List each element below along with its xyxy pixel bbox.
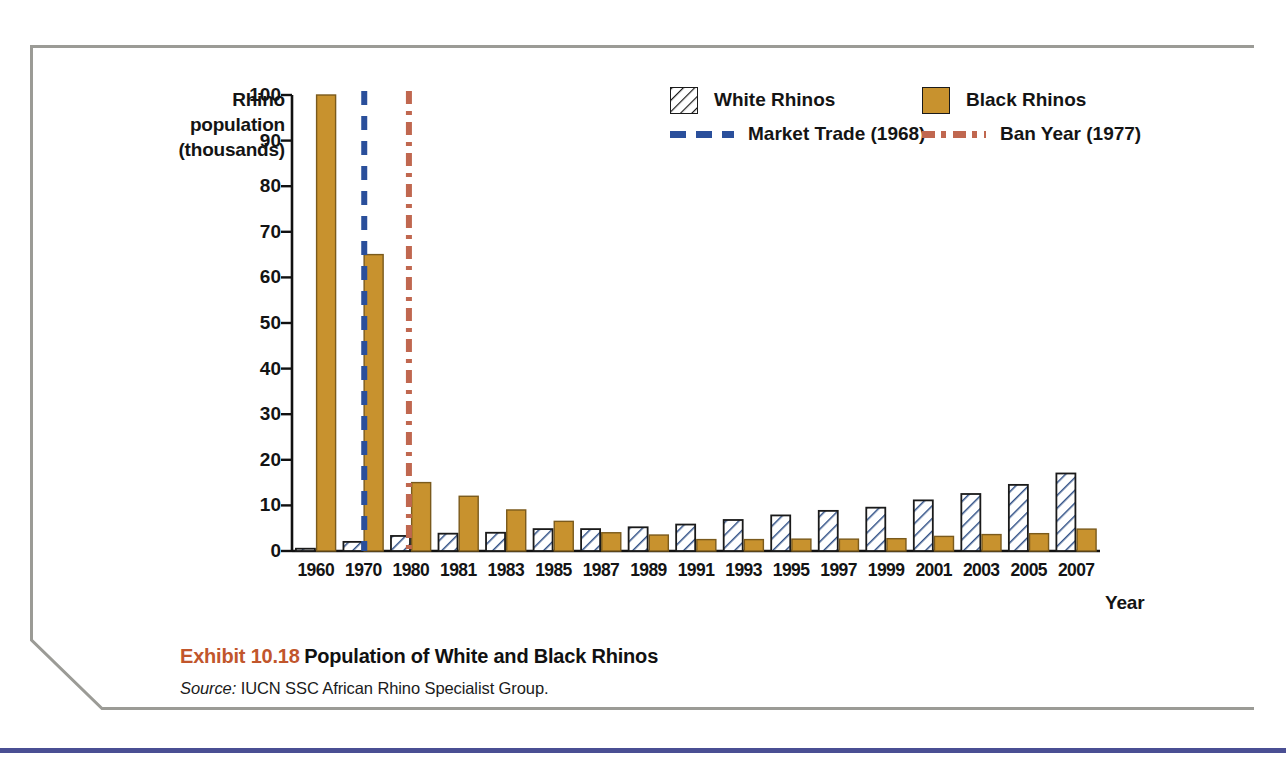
exhibit-title: Population of White and Black Rhinos bbox=[304, 645, 658, 667]
bar-white-rhinos-1970 bbox=[343, 542, 362, 551]
legend-label-market-trade: Market Trade (1968) bbox=[748, 123, 925, 145]
bar-black-rhinos-1999 bbox=[887, 539, 906, 551]
bar-black-rhinos-2003 bbox=[982, 535, 1001, 551]
legend-item-white-rhinos[interactable]: White Rhinos bbox=[670, 87, 922, 114]
bar-white-rhinos-1995 bbox=[771, 515, 790, 551]
bar-white-rhinos-2003 bbox=[961, 494, 980, 551]
bar-black-rhinos-1991 bbox=[697, 540, 716, 551]
x-axis-tick-2001: 2001 bbox=[915, 560, 952, 581]
legend-label-black-rhinos: Black Rhinos bbox=[966, 89, 1086, 111]
legend-row-series: White Rhinos Black Rhinos bbox=[670, 83, 1150, 117]
source-line: Source: IUCN SSC African Rhino Specialis… bbox=[180, 679, 1180, 698]
bar-white-rhinos-1987 bbox=[581, 529, 600, 551]
x-axis-tick-1985: 1985 bbox=[535, 560, 572, 581]
bar-white-rhinos-1983 bbox=[486, 533, 505, 551]
x-axis-tick-1999: 1999 bbox=[868, 560, 905, 581]
bar-black-rhinos-1980 bbox=[412, 483, 431, 551]
chart-legend: White Rhinos Black Rhinos Market Trade (… bbox=[670, 83, 1150, 151]
bar-black-rhinos-2001 bbox=[934, 536, 953, 551]
x-axis-tick-1989: 1989 bbox=[630, 560, 667, 581]
x-axis-tick-1960: 1960 bbox=[297, 560, 334, 581]
market-trade-dashed-line-icon bbox=[670, 131, 734, 138]
source-label: Source: bbox=[180, 679, 236, 697]
legend-label-ban-year: Ban Year (1977) bbox=[1000, 123, 1141, 145]
bar-white-rhinos-1991 bbox=[676, 525, 695, 551]
bar-black-rhinos-1995 bbox=[792, 539, 811, 551]
bar-black-rhinos-1960 bbox=[317, 95, 336, 551]
legend-label-white-rhinos: White Rhinos bbox=[714, 89, 835, 111]
x-axis-tick-1970: 1970 bbox=[345, 560, 382, 581]
x-axis-tick-1983: 1983 bbox=[488, 560, 525, 581]
bar-black-rhinos-1987 bbox=[602, 533, 621, 551]
caption-title-row: Exhibit 10.18 Population of White and Bl… bbox=[180, 645, 1180, 668]
bar-black-rhinos-1981 bbox=[459, 496, 478, 551]
ban-year-dashdot-line-icon bbox=[922, 131, 986, 138]
x-axis-tick-1987: 1987 bbox=[583, 560, 620, 581]
bar-black-rhinos-1985 bbox=[554, 521, 573, 551]
legend-item-black-rhinos[interactable]: Black Rhinos bbox=[922, 87, 1086, 114]
x-axis-tick-1991: 1991 bbox=[678, 560, 715, 581]
bar-white-rhinos-2007 bbox=[1056, 473, 1075, 551]
x-axis-tick-1997: 1997 bbox=[820, 560, 857, 581]
bar-white-rhinos-1985 bbox=[534, 529, 553, 551]
bar-black-rhinos-2007 bbox=[1077, 529, 1096, 551]
legend-item-ban-year[interactable]: Ban Year (1977) bbox=[922, 123, 1141, 145]
source-text: IUCN SSC African Rhino Specialist Group. bbox=[241, 679, 549, 697]
exhibit-caption: Exhibit 10.18 Population of White and Bl… bbox=[180, 645, 1180, 698]
x-axis-tick-2007: 2007 bbox=[1058, 560, 1095, 581]
bar-white-rhinos-1981 bbox=[439, 534, 458, 551]
bar-white-rhinos-1989 bbox=[629, 527, 648, 551]
white-rhinos-swatch-icon bbox=[670, 87, 698, 114]
x-axis-tick-1980: 1980 bbox=[393, 560, 430, 581]
exhibit-number: Exhibit 10.18 bbox=[180, 645, 300, 667]
page-bottom-rule bbox=[0, 748, 1286, 753]
bar-white-rhinos-2001 bbox=[914, 500, 933, 551]
bar-white-rhinos-1999 bbox=[866, 508, 885, 551]
bar-white-rhinos-2005 bbox=[1009, 485, 1028, 551]
bar-white-rhinos-1993 bbox=[724, 520, 743, 551]
black-rhinos-swatch-icon bbox=[922, 87, 950, 114]
x-axis-tick-2003: 2003 bbox=[963, 560, 1000, 581]
bar-white-rhinos-1997 bbox=[819, 511, 838, 551]
bar-black-rhinos-1997 bbox=[839, 539, 858, 551]
x-axis-tick-2005: 2005 bbox=[1010, 560, 1047, 581]
legend-row-annotations: Market Trade (1968) Ban Year (1977) bbox=[670, 117, 1150, 151]
x-axis-tick-1993: 1993 bbox=[725, 560, 762, 581]
bar-black-rhinos-1989 bbox=[649, 535, 668, 551]
x-axis-tick-1995: 1995 bbox=[773, 560, 810, 581]
legend-item-market-trade[interactable]: Market Trade (1968) bbox=[670, 123, 922, 145]
bar-black-rhinos-2005 bbox=[1030, 534, 1049, 551]
exhibit-frame: Rhino population (thousands) 01020304050… bbox=[30, 45, 1254, 710]
bar-white-rhinos-1960 bbox=[296, 549, 315, 551]
bar-black-rhinos-1983 bbox=[507, 510, 526, 551]
bar-black-rhinos-1993 bbox=[744, 540, 763, 551]
x-axis-tick-1981: 1981 bbox=[440, 560, 477, 581]
